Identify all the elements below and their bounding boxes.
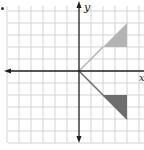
y-axis-down-arrow-icon [77,136,82,143]
x-axis-label: x [139,72,144,83]
y-axis-label: y [83,1,91,14]
y-axis-up-arrow-icon [77,1,82,8]
axes: y x [4,1,144,143]
x-axis-left-arrow-icon [4,69,11,74]
coordinate-plane: y x [0,0,144,150]
